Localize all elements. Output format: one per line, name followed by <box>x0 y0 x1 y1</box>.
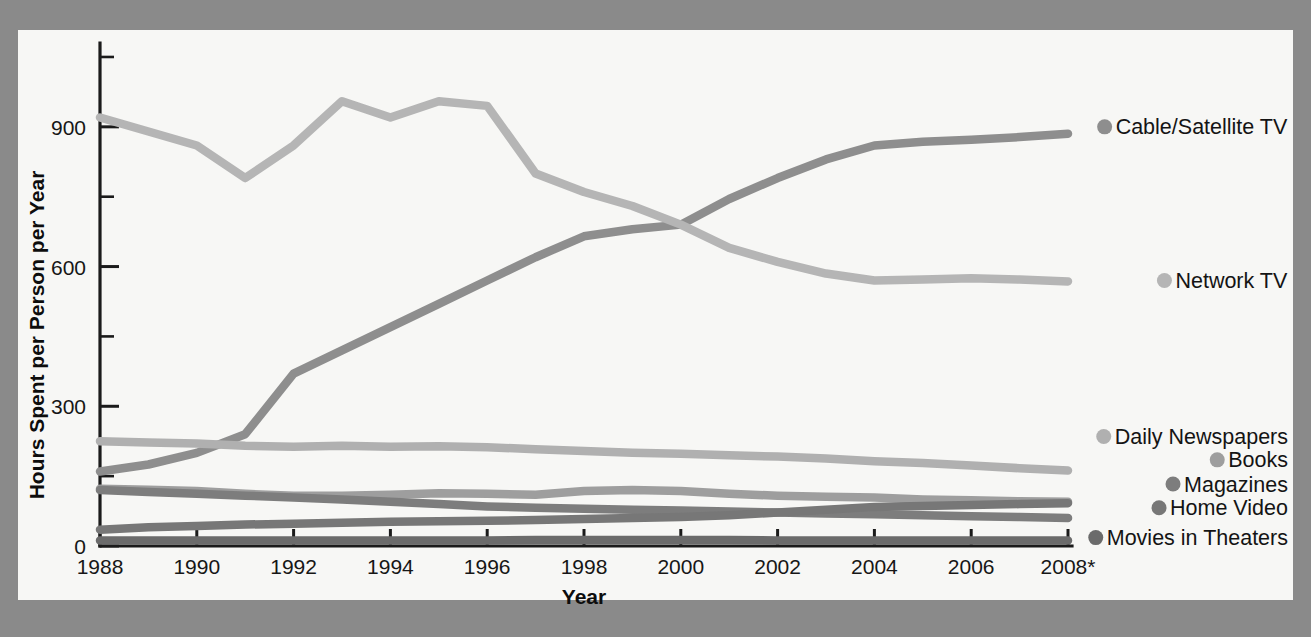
series-lines <box>100 101 1068 540</box>
y-tick-label-300: 300 <box>51 395 86 418</box>
chart-svg: 0300600900 19881990199219941996199820002… <box>0 0 1311 637</box>
legend-marker-icon-daily-newspapers <box>1096 429 1111 444</box>
legend-marker-icon-movies-in-theaters <box>1088 530 1103 545</box>
x-tick-label-2002: 2002 <box>754 555 801 578</box>
x-tick-label-1998: 1998 <box>561 555 608 578</box>
page-root: 0300600900 19881990199219941996199820002… <box>0 0 1311 637</box>
series-line-cable-satellite-tv <box>100 134 1068 472</box>
series-line-daily-newspapers <box>100 441 1068 470</box>
x-tick-label-1988: 1988 <box>77 555 124 578</box>
x-tick-label-2004: 2004 <box>851 555 898 578</box>
legend-label-cable-satellite-tv[interactable]: Cable/Satellite TV <box>1116 115 1288 139</box>
chart-figure: 0300600900 19881990199219941996199820002… <box>0 0 1311 637</box>
y-tick-labels: 0300600900 <box>51 116 86 558</box>
legend-marker-icon-magazines <box>1166 477 1181 492</box>
y-tick-label-900: 900 <box>51 116 86 139</box>
legend-label-magazines[interactable]: Magazines <box>1184 473 1288 497</box>
legend-label-network-tv[interactable]: Network TV <box>1175 269 1288 293</box>
series-line-network-tv <box>100 101 1068 281</box>
x-tick-label-1994: 1994 <box>367 555 414 578</box>
legend-marker-icon-cable-satellite-tv <box>1097 119 1112 134</box>
legend: Cable/Satellite TVNetwork TVDaily Newspa… <box>1088 115 1288 550</box>
legend-marker-icon-home-video <box>1152 500 1167 515</box>
x-axis-title: Year <box>562 585 606 608</box>
legend-marker-icon-books <box>1210 452 1225 467</box>
y-axis-title: Hours Spent per Person per Year <box>25 171 48 500</box>
legend-label-daily-newspapers[interactable]: Daily Newspapers <box>1115 425 1288 449</box>
x-tick-label-2008: 2008* <box>1041 555 1096 578</box>
y-tick-label-600: 600 <box>51 256 86 279</box>
axes <box>100 43 1072 546</box>
x-tick-label-1990: 1990 <box>173 555 220 578</box>
legend-label-home-video[interactable]: Home Video <box>1170 496 1288 520</box>
x-tick-label-1996: 1996 <box>464 555 511 578</box>
legend-label-books[interactable]: Books <box>1228 448 1288 472</box>
x-tick-label-1992: 1992 <box>270 555 317 578</box>
legend-marker-icon-network-tv <box>1157 273 1172 288</box>
x-tick-labels: 1988199019921994199619982000200220042006… <box>77 555 1096 578</box>
legend-label-movies-in-theaters[interactable]: Movies in Theaters <box>1107 526 1288 550</box>
x-tick-label-2006: 2006 <box>948 555 995 578</box>
x-tick-label-2000: 2000 <box>657 555 704 578</box>
